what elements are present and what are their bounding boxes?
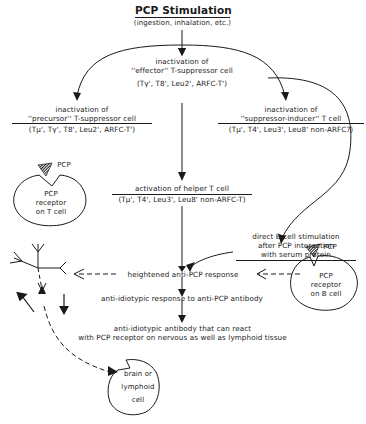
arc-loop-right [268,78,351,238]
node-heightened: heightened anti-PCP response [118,270,248,279]
subtitle: (ingestion, inhalation, etc.) [125,19,240,28]
brain-cell-label: brain or lymphoid cell [118,368,158,407]
pcp-label-t: PCP [54,161,74,170]
node-helper: activation of helper T cell (Tμ', T4', L… [112,184,252,204]
node-suppressor-inducer: inactivation of ''suppressor-inducer'' T… [218,105,364,134]
t-cell-label: PCP receptor on T cell [22,190,80,217]
node-anti-idiotypic-antibody: anti-idiotypic antibody that can react w… [70,324,295,342]
node-effector: inactivation of ''effector'' T-suppresso… [122,57,242,88]
title: PCP Stimulation [135,4,230,18]
node-precursor: inactivation of ''precursor'' T-suppress… [12,105,152,134]
pcp-t-icon [38,163,52,176]
b-cell-label: PCP receptor on B cell [297,272,355,299]
pcp-label-b: PCP [320,243,340,252]
node-anti-idiotypic-response: anti-idiotypic response to anti-PCP anti… [92,294,272,303]
